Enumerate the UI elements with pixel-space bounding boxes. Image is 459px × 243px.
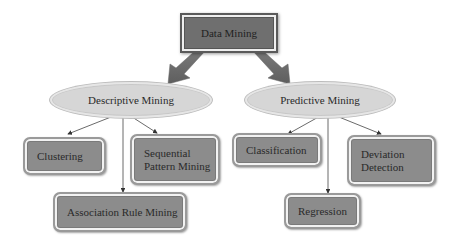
node-classification: Classification xyxy=(232,133,322,167)
node-label: Predictive Mining xyxy=(280,94,360,106)
node-predictive-mining: Predictive Mining xyxy=(245,82,395,118)
node-label: Data Mining xyxy=(201,27,257,40)
node-label: Regression xyxy=(286,205,347,218)
node-label: Descriptive Mining xyxy=(88,94,174,106)
node-label: Sequential Pattern Mining xyxy=(132,147,210,173)
node-clustering: Clustering xyxy=(23,137,106,175)
node-descriptive-mining: Descriptive Mining xyxy=(50,82,212,118)
block-arrow-right xyxy=(252,50,290,84)
node-data-mining: Data Mining xyxy=(180,13,278,53)
block-arrow-left xyxy=(168,50,206,84)
data-mining-diagram: Data Mining Descriptive Mining Predictiv… xyxy=(0,0,459,243)
node-label: Deviation Detection xyxy=(349,148,404,174)
node-label: Classification xyxy=(234,144,307,157)
node-regression: Regression xyxy=(284,193,361,229)
node-label: Clustering xyxy=(25,150,83,163)
node-deviation-detection: Deviation Detection xyxy=(347,135,436,186)
node-label: Association Rule Mining xyxy=(55,206,178,219)
node-sequential-pattern-mining: Sequential Pattern Mining xyxy=(130,134,220,185)
node-association-rule-mining: Association Rule Mining xyxy=(53,192,187,232)
